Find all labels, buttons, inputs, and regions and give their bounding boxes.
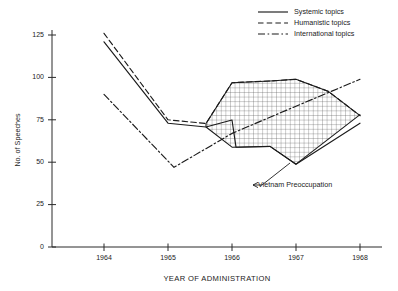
y-tick-label-0: 0 [40, 243, 44, 250]
y-tick-label-50: 50 [36, 158, 44, 165]
x-tick-label-1965: 1965 [160, 254, 176, 261]
y-tick-label-25: 25 [36, 200, 44, 207]
chart-container: Systemic topics Humanistic topics Intern… [0, 0, 398, 291]
x-tick-label-1964: 1964 [96, 254, 112, 261]
x-tick-label-1968: 1968 [352, 254, 368, 261]
vietnam-preoccupation-region-group [206, 79, 360, 164]
y-tick-label-75: 75 [36, 116, 44, 123]
y-tick-label-125: 125 [32, 31, 44, 38]
x-axis-tick-labels: 1964 1965 1966 1967 1968 [96, 254, 368, 261]
y-tick-label-100: 100 [32, 73, 44, 80]
x-tick-label-1967: 1967 [288, 254, 304, 261]
legend-item-systemic: Systemic topics [258, 7, 344, 16]
legend-label-international: International topics [294, 29, 355, 38]
chart-legend: Systemic topics Humanistic topics Intern… [258, 7, 355, 38]
legend-item-international: International topics [258, 29, 355, 38]
vietnam-preoccupation-annotation: Vietnam Preoccupation [253, 163, 332, 189]
speeches-line-chart: Systemic topics Humanistic topics Intern… [0, 0, 398, 291]
annotation-label-vietnam-preoccupation: Vietnam Preoccupation [258, 180, 332, 189]
legend-label-humanistic: Humanistic topics [294, 18, 351, 27]
chart-axes: 0 25 50 75 100 125 1964 1965 1966 1967 [13, 30, 382, 283]
vietnam-preoccupation-hatched-band [206, 79, 360, 164]
legend-label-systemic: Systemic topics [294, 7, 344, 16]
y-axis-tick-labels: 0 25 50 75 100 125 [32, 31, 44, 250]
x-axis-title: YEAR OF ADMINISTRATION [163, 274, 270, 283]
y-axis-title: No. of Speeches [13, 113, 22, 167]
legend-item-humanistic: Humanistic topics [258, 18, 351, 27]
x-tick-label-1966: 1966 [224, 254, 240, 261]
